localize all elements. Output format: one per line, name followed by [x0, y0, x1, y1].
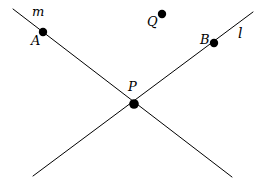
line-l [33, 12, 253, 176]
point-label-P: P [128, 80, 137, 93]
point-label-B: B [200, 33, 210, 46]
point-B [210, 39, 218, 47]
geometry-figure: m l A B P Q [0, 0, 265, 189]
point-label-A: A [31, 34, 40, 47]
line-label-l: l [238, 26, 242, 40]
point-P [129, 99, 139, 109]
line-label-m: m [32, 5, 44, 18]
figure-canvas [0, 0, 265, 189]
point-Q [158, 10, 166, 18]
point-label-Q: Q [147, 15, 158, 28]
